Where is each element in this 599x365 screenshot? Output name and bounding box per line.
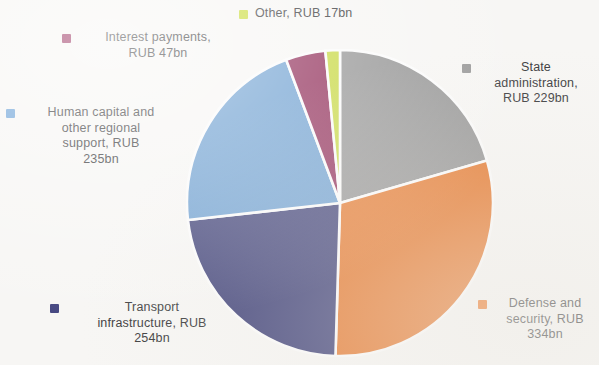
legend-label-transport-infrastructure: Transport infrastructure, RUB 254bn (66, 300, 238, 347)
legend-label-other: Other, RUB 17bn (255, 6, 352, 22)
legend-item-other[interactable]: Other, RUB 17bn (239, 6, 352, 22)
legend-swatch-human-capital-icon (6, 109, 15, 118)
legend-swatch-interest-payments-icon (62, 34, 71, 43)
legend-item-defense-security[interactable]: Defense and security, RUB 334bn (478, 296, 598, 343)
pie-chart-figure: Other, RUB 17bn Interest payments, RUB 4… (0, 0, 599, 365)
legend-label-interest-payments: Interest payments, RUB 47bn (78, 30, 238, 61)
legend-label-state-administration: State administration, RUB 229bn (478, 60, 594, 107)
legend-item-interest-payments[interactable]: Interest payments, RUB 47bn (62, 30, 240, 61)
legend-swatch-state-administration-icon (462, 64, 471, 73)
legend-label-human-capital: Human capital and other regional support… (22, 105, 180, 167)
legend-item-transport-infrastructure[interactable]: Transport infrastructure, RUB 254bn (50, 300, 240, 347)
legend-swatch-transport-infrastructure-icon (50, 304, 59, 313)
legend-swatch-defense-security-icon (478, 300, 487, 309)
legend-label-defense-security: Defense and security, RUB 334bn (494, 296, 596, 343)
legend-swatch-other-icon (239, 10, 248, 19)
legend-item-human-capital[interactable]: Human capital and other regional support… (6, 105, 182, 167)
legend-item-state-administration[interactable]: State administration, RUB 229bn (462, 60, 596, 107)
